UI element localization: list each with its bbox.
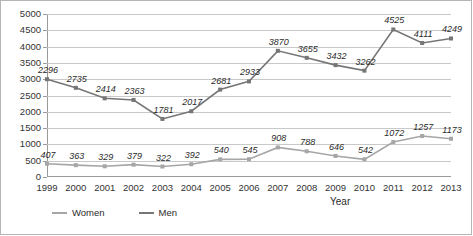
data-label: 1257 bbox=[413, 123, 433, 132]
y-tick-label: 5000 bbox=[20, 9, 41, 19]
data-point-marker bbox=[74, 163, 78, 167]
data-label: 3655 bbox=[298, 45, 318, 54]
data-point-marker bbox=[74, 86, 78, 90]
data-label: 322 bbox=[156, 154, 171, 163]
data-point-marker bbox=[334, 154, 338, 158]
line-chart: 0500100015002000250030003500400045005000… bbox=[0, 0, 473, 236]
data-label: 4525 bbox=[384, 16, 404, 25]
legend-line-icon bbox=[52, 212, 67, 214]
data-point-marker bbox=[132, 163, 136, 167]
data-label: 2017 bbox=[182, 98, 202, 107]
x-tick-label: 2001 bbox=[94, 183, 115, 193]
data-point-marker bbox=[391, 140, 395, 144]
data-label: 407 bbox=[40, 151, 55, 160]
data-label: 908 bbox=[271, 134, 286, 143]
data-label: 2363 bbox=[125, 87, 145, 96]
data-label: 3432 bbox=[327, 52, 347, 61]
data-point-marker bbox=[420, 134, 424, 138]
data-label: 4111 bbox=[414, 30, 433, 39]
data-point-marker bbox=[247, 157, 251, 161]
data-label: 646 bbox=[329, 143, 344, 152]
data-point-marker bbox=[160, 165, 164, 169]
data-point-marker bbox=[218, 157, 222, 161]
data-label: 1173 bbox=[442, 126, 461, 135]
data-point-marker bbox=[45, 77, 49, 81]
data-label: 1781 bbox=[153, 106, 173, 115]
y-tick-mark bbox=[43, 177, 47, 178]
data-point-marker bbox=[449, 137, 453, 141]
data-label: 363 bbox=[69, 152, 84, 161]
x-tick-label: 2002 bbox=[123, 183, 144, 193]
x-tick-label: 2004 bbox=[181, 183, 202, 193]
x-tick-label: 2010 bbox=[354, 183, 375, 193]
data-label: 329 bbox=[98, 153, 113, 162]
data-point-marker bbox=[218, 88, 222, 92]
data-point-marker bbox=[160, 117, 164, 121]
data-point-marker bbox=[305, 56, 309, 60]
data-point-marker bbox=[132, 98, 136, 102]
x-tick-label: 2000 bbox=[65, 183, 86, 193]
legend-line-icon bbox=[139, 212, 154, 214]
data-label: 545 bbox=[242, 146, 257, 155]
data-label: 2933 bbox=[240, 68, 260, 77]
data-point-marker bbox=[334, 63, 338, 67]
data-label: 3870 bbox=[269, 38, 289, 47]
data-label: 788 bbox=[300, 138, 315, 147]
data-point-marker bbox=[420, 41, 424, 45]
data-label: 1072 bbox=[384, 129, 404, 138]
y-tick-label: 1000 bbox=[20, 140, 41, 150]
x-tick-label: 2003 bbox=[152, 183, 173, 193]
data-label: 2681 bbox=[211, 77, 231, 86]
data-point-marker bbox=[247, 79, 251, 83]
data-point-marker bbox=[276, 145, 280, 149]
data-point-marker bbox=[362, 157, 366, 161]
data-point-marker bbox=[103, 164, 107, 168]
x-tick-label: 2011 bbox=[383, 183, 403, 193]
data-label: 540 bbox=[214, 146, 229, 155]
x-tick-label: 2005 bbox=[210, 183, 231, 193]
y-tick-label: 2000 bbox=[20, 107, 41, 117]
y-tick-label: 1500 bbox=[20, 123, 41, 133]
data-point-marker bbox=[391, 27, 395, 31]
legend-label: Women bbox=[72, 208, 105, 218]
y-tick-label: 500 bbox=[25, 156, 41, 166]
y-tick-label: 2500 bbox=[20, 91, 41, 101]
x-tick-label: 1999 bbox=[36, 183, 57, 193]
y-tick-label: 3000 bbox=[20, 74, 41, 84]
data-label: 2735 bbox=[67, 75, 87, 84]
y-tick-label: 4500 bbox=[20, 26, 41, 36]
data-label: 2296 bbox=[38, 66, 58, 75]
data-label: 2414 bbox=[96, 85, 116, 94]
y-tick-label: 4000 bbox=[20, 42, 41, 52]
x-tick-label: 2013 bbox=[440, 183, 461, 193]
data-point-marker bbox=[45, 162, 49, 166]
plot-area: 0500100015002000250030003500400045005000… bbox=[47, 14, 451, 177]
x-tick-label: 2009 bbox=[325, 183, 346, 193]
x-tick-label: 2007 bbox=[267, 183, 288, 193]
data-point-marker bbox=[276, 49, 280, 53]
y-tick-label: 0 bbox=[36, 172, 41, 182]
data-point-marker bbox=[305, 149, 309, 153]
legend-item-women[interactable]: Women bbox=[52, 208, 105, 218]
x-axis-title: Year bbox=[330, 196, 350, 207]
x-tick-label: 2012 bbox=[412, 183, 433, 193]
x-tick-label: 2008 bbox=[296, 183, 317, 193]
data-point-marker bbox=[103, 96, 107, 100]
data-label: 392 bbox=[185, 151, 200, 160]
legend-label: Men bbox=[159, 208, 177, 218]
data-label: 379 bbox=[127, 152, 142, 161]
data-label: 542 bbox=[358, 146, 373, 155]
legend-item-men[interactable]: Men bbox=[139, 208, 177, 218]
data-point-marker bbox=[189, 109, 193, 113]
data-label: 4249 bbox=[442, 25, 462, 34]
chart-legend: WomenMen bbox=[52, 208, 177, 218]
x-tick-label: 2006 bbox=[238, 183, 259, 193]
data-point-marker bbox=[189, 162, 193, 166]
data-label: 3262 bbox=[355, 58, 375, 67]
data-point-marker bbox=[449, 36, 453, 40]
data-point-marker bbox=[362, 69, 366, 73]
